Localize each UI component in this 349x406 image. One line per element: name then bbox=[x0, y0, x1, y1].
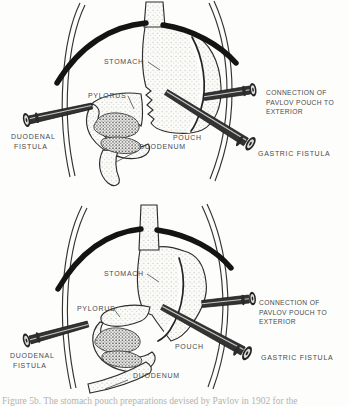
label-duodenum-bottom: DUODENUM bbox=[133, 372, 180, 379]
label-pouch-bottom: POUCH bbox=[175, 343, 204, 350]
label-duodenal-fistula-line1-bottom: DUODENAL bbox=[10, 352, 55, 359]
label-stomach-bottom: STOMACH bbox=[104, 270, 144, 277]
body-wall-left-outer-bottom bbox=[62, 206, 82, 389]
label-connection-line1-bottom: CONNECTION OF bbox=[259, 299, 320, 306]
body-wall-left-inner-bottom bbox=[67, 208, 87, 388]
body-wall-left-outer-top bbox=[62, 3, 80, 177]
label-connection-line1-top: CONNECTION OF bbox=[266, 89, 327, 96]
label-duodenum-top: DUODENUM bbox=[139, 143, 186, 150]
figure-bottom: STOMACH PYLORUS DUODENAL FISTULA DUODENU… bbox=[10, 204, 333, 393]
label-connection-line2-bottom: PAVLOV POUCH TO bbox=[259, 309, 327, 316]
label-connection-line2-top: PAVLOV POUCH TO bbox=[266, 99, 334, 106]
label-pylorus-top: PYLORUS bbox=[88, 92, 126, 99]
duodenal-cannula-top bbox=[22, 103, 93, 128]
label-stomach-top: STOMACH bbox=[104, 58, 144, 65]
label-duodenal-fistula-line2-top: FISTULA bbox=[14, 143, 48, 150]
label-duodenal-fistula-line1-top: DUODENAL bbox=[11, 133, 56, 140]
label-gastric-fistula-top: GASTRIC FISTULA bbox=[258, 150, 330, 157]
figure-top: STOMACH PYLORUS DUODENAL FISTULA DUODENU… bbox=[11, 1, 334, 185]
figure-caption: Figure 5b. The stomach pouch preparation… bbox=[2, 396, 349, 406]
pancreas-shape-bottom bbox=[95, 328, 140, 353]
label-gastric-fistula-bottom: GASTRIC FISTULA bbox=[261, 354, 333, 361]
pouch-connection-cannula-bottom bbox=[202, 291, 257, 307]
pancreas-shape-top bbox=[94, 113, 139, 138]
duodenal-cannula-bottom bbox=[21, 321, 88, 348]
label-pouch-top: POUCH bbox=[173, 134, 202, 141]
label-duodenal-fistula-line2-bottom: FISTULA bbox=[13, 362, 47, 369]
body-wall-right-outer-bottom bbox=[207, 204, 228, 389]
label-pylorus-bottom: PYLORUS bbox=[77, 305, 115, 312]
label-connection-line3-top: EXTERIOR bbox=[266, 108, 303, 115]
label-connection-line3-bottom: EXTERIOR bbox=[259, 318, 296, 325]
duodenum-tail-shape-top bbox=[100, 150, 120, 185]
